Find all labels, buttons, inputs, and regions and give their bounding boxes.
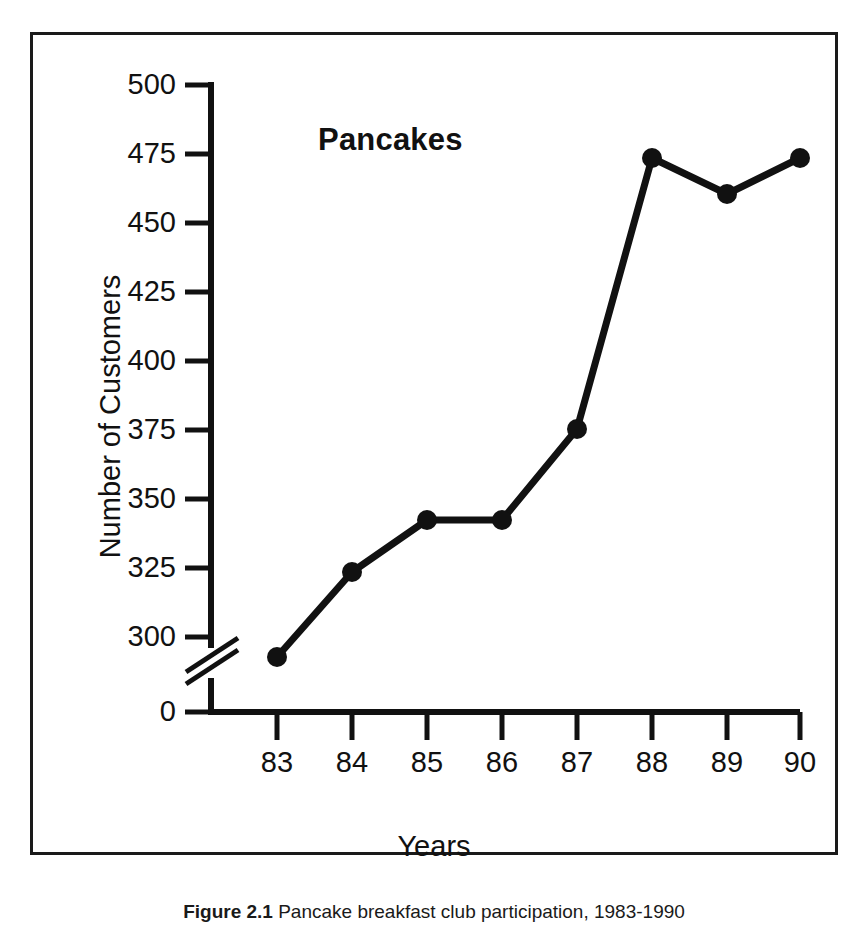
x-tick-label-85: 85 [397,748,457,777]
x-tick-label-90: 90 [770,748,830,777]
x-tick-label-84: 84 [322,748,382,777]
x-tick-label-83: 83 [247,748,307,777]
x-tick-label-88: 88 [622,748,682,777]
figure-root: Pancakes 500 475 450 425 400 375 350 325… [0,0,868,927]
x-tick-label-89: 89 [697,748,757,777]
x-axis-title: Years [0,830,868,863]
x-tick-label-86: 86 [472,748,532,777]
figure-caption-text: Pancake breakfast club participation, 19… [278,901,685,922]
chart-title: Pancakes [318,122,463,158]
figure-caption-label: Figure 2.1 [183,901,273,922]
y-tick-label-475: 475 [84,139,176,168]
y-tick-label-500: 500 [84,70,176,99]
y-tick-label-0: 0 [84,697,176,726]
figure-caption: Figure 2.1 Pancake breakfast club partic… [0,901,868,923]
y-axis-title: Number of Customers [94,207,127,627]
x-tick-label-87: 87 [547,748,607,777]
